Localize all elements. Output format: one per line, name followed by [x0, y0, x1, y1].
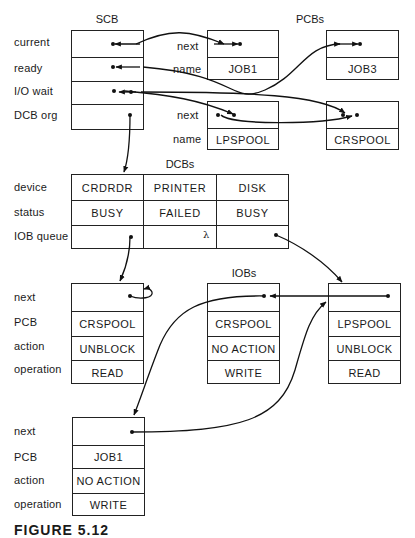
iob-job1-write: JOB1 NO ACTION WRITE — [72, 417, 145, 516]
iob-pcb-cell: JOB1 — [73, 445, 144, 468]
iob-action-cell: UNBLOCK — [72, 336, 143, 360]
pcb-next-cell — [327, 31, 398, 57]
dcb-disk-iob-queue — [217, 226, 288, 248]
pcb-crspool: CRSPOOL — [326, 101, 399, 150]
iob-label-next: next — [14, 291, 36, 303]
iob-action-cell: NO ACTION — [73, 468, 144, 493]
iob-label-action: action — [14, 474, 45, 486]
iob-pcb-cell: CRSPOOL — [208, 311, 279, 336]
scb-title: SCB — [71, 13, 143, 25]
scb-current-cell — [72, 31, 143, 57]
iob-label-pcb: PCB — [14, 451, 37, 463]
pcb-name-cell: LPSPOOL — [208, 128, 278, 150]
iob-crspool-write: CRSPOOL NO ACTION WRITE — [207, 283, 280, 384]
pcb-name-cell: JOB3 — [327, 57, 398, 80]
dcb-printer-device: PRINTER — [144, 175, 217, 201]
pcb-name-cell: CRSPOOL — [327, 128, 398, 150]
iobs-title: IOBs — [214, 267, 274, 279]
scb-io-wait-cell — [72, 81, 143, 104]
dcb-disk-device: DISK — [217, 175, 288, 201]
iob-lpspool-read: LPSPOOL UNBLOCK READ — [328, 283, 401, 384]
dcb-label-iob-queue: IOB queue — [14, 230, 68, 242]
iob-label-pcb: PCB — [14, 316, 37, 328]
dcb-label-status: status — [14, 206, 45, 218]
dcb-crdrdr-device: CRDRDR — [72, 175, 144, 201]
iob-label-operation: operation — [14, 363, 62, 375]
iob-label-next: next — [14, 425, 36, 437]
iob-next-cell — [72, 284, 143, 311]
iob-label-operation: operation — [14, 498, 62, 510]
dcb-crdrdr-iob-queue — [72, 226, 144, 248]
iob-crspool-read: CRSPOOL UNBLOCK READ — [71, 283, 144, 384]
pcb-label-next: next — [177, 40, 199, 52]
iob-operation-cell: READ — [329, 360, 400, 384]
iob-action-cell: NO ACTION — [208, 336, 279, 360]
pcb-next-cell — [208, 31, 278, 57]
null-pointer-lambda: λ — [203, 229, 210, 240]
scb-label-ready: ready — [14, 62, 43, 74]
pcb-next-cell — [208, 102, 278, 128]
scb-dcb-org-cell — [72, 104, 143, 130]
dcb-disk-status: BUSY — [217, 201, 288, 226]
iob-operation-cell: WRITE — [73, 493, 144, 516]
dcb-crdrdr-status: BUSY — [72, 201, 144, 226]
scb-label-io-wait: I/O wait — [14, 85, 53, 97]
pcb-label-name: name — [173, 63, 201, 75]
iob-operation-cell: WRITE — [208, 360, 279, 384]
pcb-job3: JOB3 — [326, 30, 399, 80]
pcb-label-name: name — [173, 133, 201, 145]
iob-next-cell — [329, 284, 400, 311]
iob-operation-cell: READ — [72, 360, 143, 384]
pcbs-title: PCBs — [280, 13, 340, 25]
scb-label-current: current — [14, 36, 50, 48]
pcb-label-next: next — [177, 109, 199, 121]
iob-pcb-cell: CRSPOOL — [72, 311, 143, 336]
pcb-lpspool: LPSPOOL — [207, 101, 279, 150]
iob-next-cell — [208, 284, 279, 311]
iob-pcb-cell: LPSPOOL — [329, 311, 400, 336]
pcb-next-cell — [327, 102, 398, 128]
pcb-job1: JOB1 — [207, 30, 279, 80]
iob-label-action: action — [14, 340, 45, 352]
dcb-printer-status: FAILED — [144, 201, 217, 226]
scb-label-dcb-org: DCB org — [14, 109, 58, 121]
dcbs-title: DCBs — [150, 158, 210, 170]
dcb-printer-iob-queue: λ — [144, 226, 217, 248]
figure-caption: FIGURE 5.12 — [14, 522, 109, 538]
iob-next-cell — [73, 418, 144, 445]
scb-box — [71, 30, 144, 130]
scb-ready-cell — [72, 57, 143, 81]
dcb-label-device: device — [14, 181, 47, 193]
iob-action-cell: UNBLOCK — [329, 336, 400, 360]
pcb-name-cell: JOB1 — [208, 57, 278, 80]
dcb-table: CRDRDR PRINTER DISK BUSY FAILED BUSY λ — [71, 174, 289, 249]
